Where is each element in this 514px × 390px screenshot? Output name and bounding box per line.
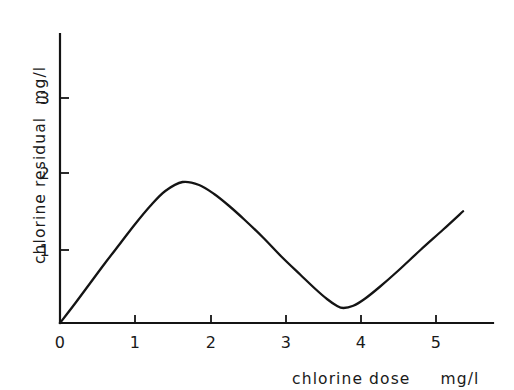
x-tick-label-1: 1 [130, 333, 140, 352]
x-axis-title-spacer [410, 370, 440, 388]
y-axis-title-text: chlorine residual [31, 117, 49, 264]
chart-figure: 3 2 1 0 1 2 3 4 5 chlorine dose mg/l chl… [0, 0, 514, 390]
x-tick-label-2: 2 [206, 333, 216, 352]
x-tick-label-5: 5 [431, 333, 441, 352]
y-axis-title-spacer [31, 105, 49, 117]
y-axis-title: chlorine residual mg/l [13, 32, 67, 322]
y-axis-units: mg/l [31, 66, 49, 105]
chlorine-residual-curve [60, 182, 463, 323]
x-tick-label-3: 3 [281, 333, 291, 352]
x-axis-title: chlorine dose mg/l [268, 352, 479, 390]
x-tick-label-0: 0 [55, 333, 65, 352]
x-tick-label-4: 4 [356, 333, 366, 352]
x-axis-title-text: chlorine dose [292, 370, 410, 388]
x-axis-units: mg/l [441, 370, 480, 388]
chart-plot-area: 3 2 1 0 1 2 3 4 5 [0, 0, 514, 390]
